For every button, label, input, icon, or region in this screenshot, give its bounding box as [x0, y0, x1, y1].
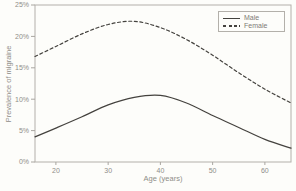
x-axis-label: Age (years) — [144, 174, 183, 183]
x-tick-label: 20 — [52, 167, 60, 174]
y-tick-label: 20% — [15, 33, 29, 40]
legend-item-female: Female — [223, 22, 280, 30]
female-series-line — [35, 21, 291, 103]
male-series-line — [35, 95, 291, 148]
y-tick-label: 25% — [15, 1, 29, 8]
legend-label-male: Male — [244, 14, 259, 22]
legend-label-female: Female — [244, 22, 267, 30]
y-tick-label: 10% — [15, 96, 29, 103]
y-tick-label: 15% — [15, 64, 29, 71]
legend-item-male: Male — [223, 14, 280, 22]
x-tick-label: 60 — [261, 167, 269, 174]
x-tick-label: 40 — [156, 167, 164, 174]
legend: Male Female — [218, 11, 285, 32]
y-tick-label: 0% — [19, 158, 29, 165]
y-axis-label: Prevalence of migraine — [4, 46, 13, 123]
y-tick-label: 5% — [19, 127, 29, 134]
migraine-prevalence-chart: 0%5%10%15%20%25%2030405060 Prevalence of… — [0, 0, 296, 191]
x-tick-label: 30 — [104, 167, 112, 174]
male-line-sample-icon — [223, 18, 240, 19]
x-tick-label: 50 — [209, 167, 217, 174]
female-line-sample-icon — [223, 25, 240, 26]
